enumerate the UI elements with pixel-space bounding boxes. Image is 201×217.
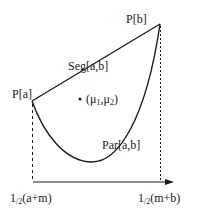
point-label-pb: P[b] — [126, 13, 147, 25]
x-axis-arrowhead — [165, 179, 174, 185]
parabola-label: Par[a,b] — [102, 139, 140, 151]
axis-label-right: 1/2(m+b) — [138, 192, 180, 206]
expression: (m+b) — [150, 191, 180, 205]
mean-point-label: (μ1,μ2) — [86, 93, 118, 107]
expression: (a+m) — [22, 191, 51, 205]
axis-label-left: 1/2(a+m) — [10, 192, 52, 206]
point-label-pa: P[a] — [12, 88, 32, 100]
segment-label: Seg[a,b] — [68, 60, 108, 72]
paren-close: ) — [114, 92, 118, 106]
diagram-canvas — [0, 0, 201, 217]
mean-point-dot — [79, 98, 82, 101]
